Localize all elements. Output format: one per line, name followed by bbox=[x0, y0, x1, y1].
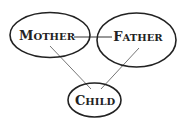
edge-father-child bbox=[101, 48, 139, 89]
family-diagram: MOTHER FATHER CHILD bbox=[0, 0, 188, 121]
edge-mother-child bbox=[50, 46, 91, 89]
node-child: CHILD bbox=[68, 83, 121, 117]
node-father: FATHER bbox=[97, 13, 176, 67]
mother-label: MOTHER bbox=[19, 28, 76, 43]
child-label: CHILD bbox=[75, 93, 116, 108]
node-mother: MOTHER bbox=[10, 13, 90, 58]
father-label: FATHER bbox=[113, 29, 163, 44]
